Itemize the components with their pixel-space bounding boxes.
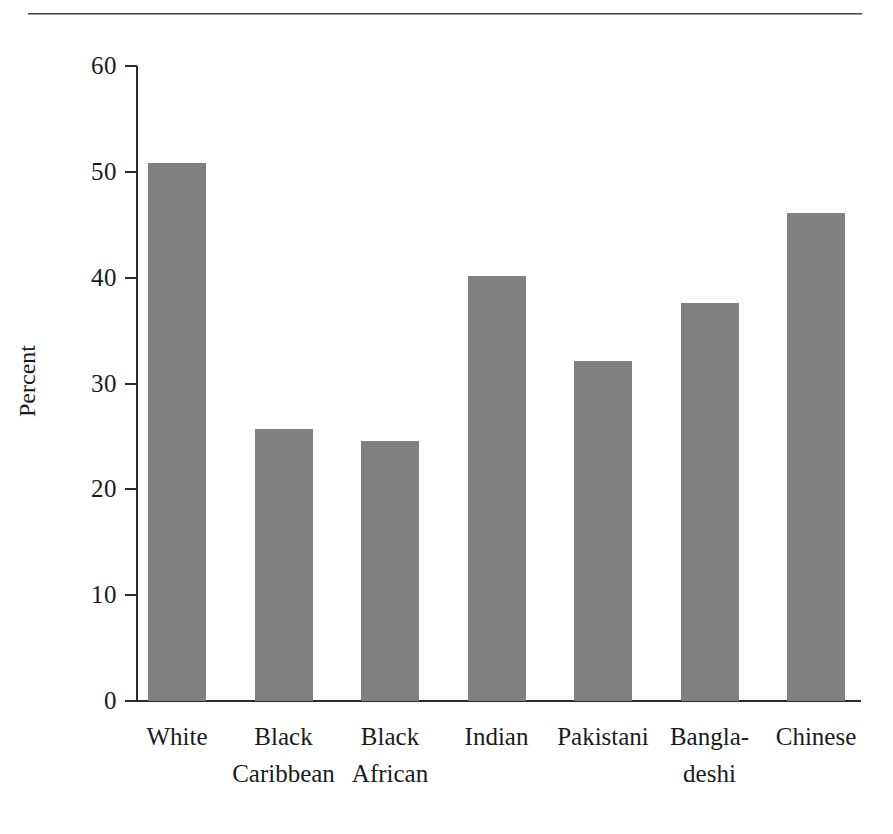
y-axis-tick xyxy=(125,383,137,385)
y-axis-tick-label-text: 30 xyxy=(57,371,117,396)
bar xyxy=(148,163,206,701)
bar xyxy=(574,361,632,701)
y-axis-title: Percent xyxy=(15,321,39,441)
y-axis-tick-label-text: 0 xyxy=(57,688,117,713)
bar xyxy=(468,276,526,701)
bar-chart-figure: 0102030405060 Percent WhiteBlackCaribbea… xyxy=(0,0,893,834)
x-axis-category-label: Chinese xyxy=(726,718,893,755)
y-axis-tick-label: 20 xyxy=(55,476,117,501)
y-axis-tick xyxy=(125,65,137,67)
y-axis-tick xyxy=(125,488,137,490)
top-horizontal-rule xyxy=(28,13,862,15)
y-axis-tick-label: 60 xyxy=(55,53,117,78)
x-axis-category-label-line: African xyxy=(300,755,480,792)
y-axis-tick-label: 40 xyxy=(55,265,117,290)
x-axis-category-label-line: deshi xyxy=(620,755,800,792)
y-axis-tick-label-text: 20 xyxy=(57,476,117,501)
y-axis-tick-label-text: 50 xyxy=(57,159,117,184)
y-axis-tick xyxy=(125,594,137,596)
y-axis-tick-label-text: 60 xyxy=(57,53,117,78)
bar xyxy=(681,303,739,701)
bar xyxy=(361,441,419,701)
y-axis-tick-label: 10 xyxy=(55,582,117,607)
y-axis-tick-label: 30 xyxy=(55,371,117,396)
x-axis-category-label-line: Chinese xyxy=(726,718,893,755)
y-axis-tick xyxy=(125,277,137,279)
bar xyxy=(787,213,845,701)
y-axis-tick-label-text: 40 xyxy=(57,265,117,290)
y-axis-tick xyxy=(125,171,137,173)
bar xyxy=(255,429,313,701)
y-axis-tick-label-text: 10 xyxy=(57,582,117,607)
y-axis-tick-label: 50 xyxy=(55,159,117,184)
y-axis-tick-label: 0 xyxy=(55,688,117,713)
y-axis-tick xyxy=(125,700,137,702)
